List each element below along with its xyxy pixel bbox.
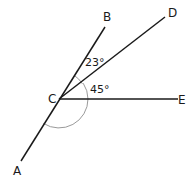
label-E: E [178, 93, 186, 107]
label-B: B [103, 10, 111, 24]
angle-diagram: B D E A C 23° 45° [0, 0, 194, 184]
angle-label-DCE: 45° [90, 83, 110, 96]
label-D: D [168, 6, 177, 20]
label-A: A [13, 164, 22, 178]
line-CD [59, 17, 165, 99]
diagram-canvas: B D E A C 23° 45° [0, 0, 194, 184]
label-C: C [48, 92, 56, 106]
angle-label-BCD: 23° [85, 56, 105, 69]
arc-angle-DCE [83, 83, 88, 99]
